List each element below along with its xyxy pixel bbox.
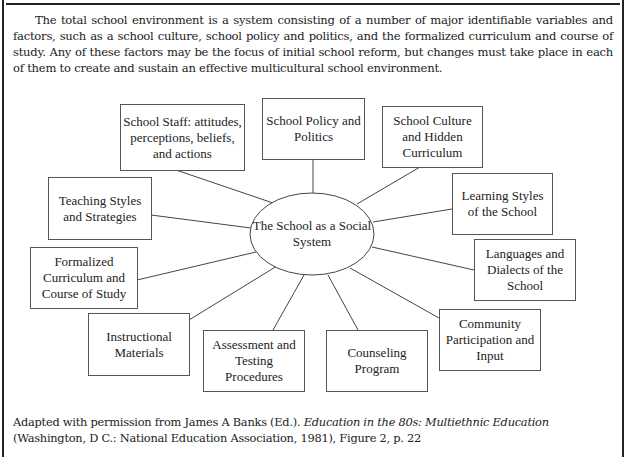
citation-suffix: (Washington, D C.: National Education As… xyxy=(13,431,421,445)
node-languages: Languages and Dialects of the School xyxy=(474,239,576,301)
node-community: Community Participation and Input xyxy=(439,309,541,371)
center-node-label: The School as a Social System xyxy=(252,218,372,250)
citation-title: Education in the 80s: Multiethnic Educat… xyxy=(304,415,549,429)
citation-prefix: Adapted with permission from James A Ban… xyxy=(13,415,304,429)
node-learning-styles: Learning Styles of the School xyxy=(452,173,553,235)
node-school-policy: School Policy and Politics xyxy=(262,98,365,160)
node-assessment: Assessment and Testing Procedures xyxy=(203,330,305,392)
node-formalized-curriculum: Formalized Curriculum and Course of Stud… xyxy=(30,247,138,309)
node-teaching-styles: Teaching Styles and Strategies xyxy=(48,177,152,240)
node-counseling: Counseling Program xyxy=(326,330,428,392)
node-school-culture: School Culture and Hidden Curriculum xyxy=(382,106,483,168)
node-school-staff: School Staff: attitudes, perceptions, be… xyxy=(120,104,245,171)
node-instructional-materials: Instructional Materials xyxy=(88,313,190,376)
citation: Adapted with permission from James A Ban… xyxy=(13,414,618,446)
